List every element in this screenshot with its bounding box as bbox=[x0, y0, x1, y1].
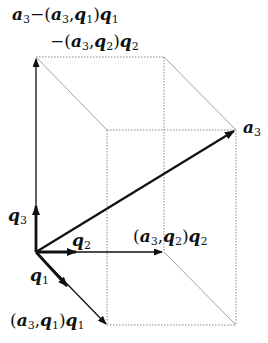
paren-close: ) bbox=[93, 4, 100, 24]
subscript: 3 bbox=[151, 235, 158, 248]
subscript: 3 bbox=[20, 214, 27, 227]
label-q2: q2 bbox=[72, 232, 91, 251]
symbol-q: q bbox=[30, 265, 42, 285]
subscript: 3 bbox=[23, 13, 30, 26]
label-q1: q1 bbox=[30, 267, 49, 286]
symbol-q: q bbox=[94, 31, 106, 51]
subscript: 1 bbox=[77, 319, 84, 332]
paren-open: ( bbox=[133, 226, 140, 246]
label-residual-line2: −(a3,q2)q2 bbox=[50, 33, 139, 52]
box-diagonal-top-left bbox=[36, 57, 107, 130]
subscript: 1 bbox=[42, 274, 49, 287]
minus-sign: − bbox=[50, 31, 64, 51]
symbol-a: a bbox=[12, 4, 23, 24]
subscript: 3 bbox=[82, 40, 89, 53]
box-diagonal-bottom-right bbox=[164, 252, 236, 325]
subscript: 2 bbox=[200, 235, 207, 248]
subscript: 2 bbox=[132, 40, 139, 53]
symbol-q: q bbox=[100, 4, 112, 24]
paren-close: ) bbox=[113, 31, 120, 51]
symbol-q: q bbox=[66, 310, 78, 330]
label-residual-line1: a3−(a3,q1)q1 bbox=[12, 6, 119, 25]
symbol-a: a bbox=[140, 226, 151, 246]
symbol-q: q bbox=[72, 230, 84, 250]
symbol-q: q bbox=[74, 4, 86, 24]
label-a3: a3 bbox=[243, 119, 261, 138]
subscript: 1 bbox=[52, 319, 59, 332]
paren-open: ( bbox=[10, 310, 17, 330]
label-projection-q2: (a3,q2)q2 bbox=[133, 228, 207, 247]
subscript: 3 bbox=[254, 126, 261, 139]
subscript: 3 bbox=[28, 319, 35, 332]
symbol-q: q bbox=[189, 226, 201, 246]
symbol-q: q bbox=[163, 226, 175, 246]
minus-sign: − bbox=[30, 4, 44, 24]
symbol-q: q bbox=[8, 205, 20, 225]
paren-close: ) bbox=[59, 310, 66, 330]
box-diagonal-top-right bbox=[164, 57, 236, 130]
symbol-a: a bbox=[51, 4, 62, 24]
symbol-a: a bbox=[243, 117, 254, 137]
subscript: 2 bbox=[84, 239, 91, 252]
label-projection-q1: (a3,q1)q1 bbox=[10, 312, 84, 331]
symbol-q: q bbox=[120, 31, 132, 51]
subscript: 1 bbox=[112, 13, 119, 26]
label-q3: q3 bbox=[8, 207, 27, 226]
symbol-q: q bbox=[40, 310, 52, 330]
paren-open: ( bbox=[64, 31, 71, 51]
paren-open: ( bbox=[44, 4, 51, 24]
subscript: 3 bbox=[62, 13, 69, 26]
paren-close: ) bbox=[182, 226, 189, 246]
symbol-a: a bbox=[71, 31, 82, 51]
subscript: 2 bbox=[175, 235, 182, 248]
symbol-a: a bbox=[17, 310, 28, 330]
